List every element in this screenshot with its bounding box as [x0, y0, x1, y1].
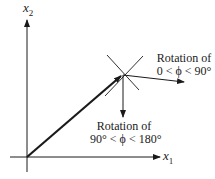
large-rotation-label: Rotation of 90° < ϕ < 180°: [90, 120, 158, 146]
rotation-diagram: [0, 0, 215, 179]
x-axis-label: x1: [163, 149, 173, 168]
y-axis-label: x2: [23, 1, 33, 20]
cross-line-2: [105, 56, 143, 96]
small-rotation-line2: 0 < ϕ < 90°: [152, 65, 215, 78]
x-axis-label-sub: 1: [169, 156, 174, 166]
small-rotation-label: Rotation of 0 < ϕ < 90°: [152, 52, 215, 78]
y-axis-label-sub: 2: [29, 8, 34, 18]
large-rotation-line2: 90° < ϕ < 180°: [90, 133, 158, 146]
